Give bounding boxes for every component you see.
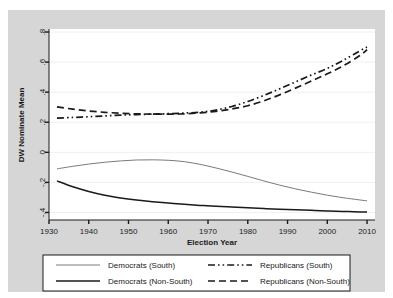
plot-area-background xyxy=(49,29,375,220)
y-axis-ticks: -.4-.20.2.4.6.8 xyxy=(38,28,49,217)
legend-label: Democrats (South) xyxy=(108,261,175,270)
x-tick-label: 1960 xyxy=(159,227,177,236)
x-tick-label: 1980 xyxy=(239,227,257,236)
x-axis-ticks: 193019401950196019701980199020002010 xyxy=(40,220,376,236)
y-tick-label: .6 xyxy=(38,58,47,65)
y-tick-label: 0 xyxy=(38,150,47,155)
y-tick-label: .4 xyxy=(38,88,47,95)
x-tick-label: 2000 xyxy=(318,227,336,236)
y-tick-label: -.4 xyxy=(38,207,47,217)
y-axis-title: DW Nominate Mean xyxy=(17,88,26,163)
x-tick-label: 2010 xyxy=(358,227,376,236)
legend-label: Republicans (South) xyxy=(260,261,333,270)
chart-figure: -.4-.20.2.4.6.8 193019401950196019701980… xyxy=(0,0,393,298)
x-tick-label: 1990 xyxy=(279,227,297,236)
legend-label: Republicans (Non-South) xyxy=(260,277,350,286)
x-axis-title: Election Year xyxy=(187,238,237,247)
y-tick-label: .8 xyxy=(38,28,47,35)
x-tick-label: 1930 xyxy=(40,227,58,236)
x-tick-label: 1950 xyxy=(120,227,138,236)
x-tick-label: 1970 xyxy=(199,227,217,236)
y-tick-label: .2 xyxy=(38,118,47,125)
x-tick-label: 1940 xyxy=(80,227,98,236)
legend-label: Democrats (Non-South) xyxy=(108,277,193,286)
y-tick-label: -.2 xyxy=(38,177,47,187)
dw-nominate-line-chart: -.4-.20.2.4.6.8 193019401950196019701980… xyxy=(0,0,393,298)
